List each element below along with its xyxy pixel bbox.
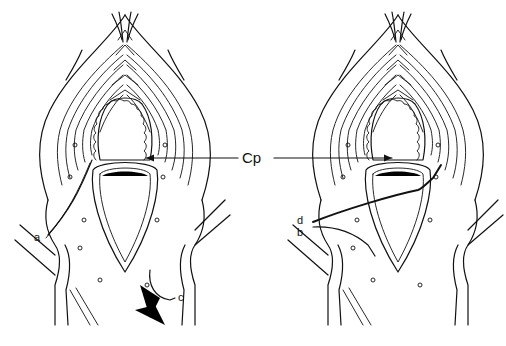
label-d: d bbox=[297, 214, 303, 226]
diagram-canvas: Cp a c d b bbox=[0, 0, 506, 346]
label-c: c bbox=[178, 291, 184, 303]
left-panel-drawing bbox=[15, 12, 230, 325]
right-panel-drawing bbox=[288, 12, 503, 325]
label-b: b bbox=[297, 226, 303, 238]
cp-label: Cp bbox=[242, 149, 261, 166]
right-path-b bbox=[313, 227, 375, 256]
label-a: a bbox=[34, 231, 41, 243]
left-path-a bbox=[48, 160, 92, 235]
